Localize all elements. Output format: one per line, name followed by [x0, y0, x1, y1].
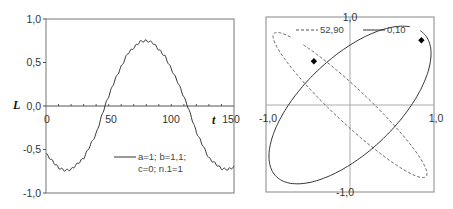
- chart-canvas: 1,0 0,5 0,0 -0,5 -1,0 0 50 100 150 L t a…: [0, 0, 453, 209]
- x-tick-label: 1,0: [429, 112, 444, 124]
- left-legend: a=1; b=1,1; c=0; n.1=1: [114, 151, 186, 174]
- y-tick-label: 0,0: [26, 100, 41, 112]
- diamond-marker: [418, 37, 424, 43]
- right-chart: 1,0 -1,0 -1,0 1,0 52,90 0,10: [259, 11, 443, 198]
- legend-label: 52,90: [320, 24, 344, 35]
- y-tick-label: -1,0: [23, 187, 41, 199]
- x-tick-label: -1,0: [259, 112, 277, 124]
- y-tick-label: 1,0: [26, 13, 41, 25]
- x-tick-label: 100: [162, 113, 180, 125]
- legend-label: 0,10: [387, 24, 406, 35]
- y-axis-title: L: [12, 98, 20, 112]
- x-tick-label: 0: [44, 113, 50, 125]
- legend-label: c=0; n.1=1: [138, 163, 183, 174]
- left-chart: 1,0 0,5 0,0 -0,5 -1,0 0 50 100 150 L t a…: [12, 13, 240, 199]
- y-tick-label: 1,0: [343, 11, 358, 23]
- y-tick-label: -1,0: [336, 186, 354, 198]
- x-tick-label: 50: [105, 113, 117, 125]
- y-tick-label: -0,5: [23, 143, 41, 155]
- legend-label: a=1; b=1,1;: [138, 151, 186, 162]
- x-axis-title: t: [212, 113, 216, 127]
- right-legend: 52,90 0,10: [296, 24, 406, 35]
- diamond-marker: [311, 58, 317, 64]
- y-tick-label: 0,5: [26, 56, 41, 68]
- x-tick-label: 150: [222, 113, 240, 125]
